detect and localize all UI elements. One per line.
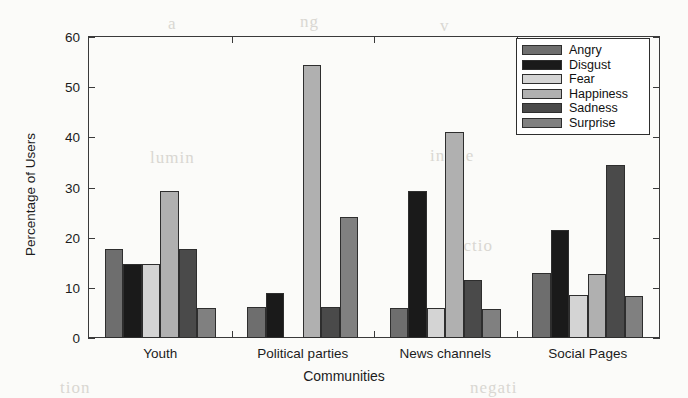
legend-item-sadness: Sadness	[522, 101, 644, 116]
bar-angry-news-channels	[390, 308, 409, 338]
bar-fear-social-pages	[569, 295, 588, 338]
bar-sadness-youth	[179, 249, 198, 338]
bar-fear-youth	[142, 264, 161, 338]
bar-happiness-news-channels	[445, 132, 464, 338]
legend-label: Fear	[569, 73, 595, 86]
y-tick-label: 50	[44, 80, 80, 95]
legend-label: Surprise	[569, 117, 616, 130]
bar-angry-youth	[105, 249, 124, 338]
bar-surprise-social-pages	[625, 296, 644, 338]
bar-surprise-youth	[197, 308, 216, 338]
legend-item-angry: Angry	[522, 43, 644, 58]
bar-sadness-political-parties	[321, 307, 340, 338]
bar-chart-figure: a ng v lumin in the ectio tion negati Pe…	[0, 0, 688, 398]
bar-happiness-youth	[160, 191, 179, 338]
bar-disgust-political-parties	[266, 293, 285, 338]
legend: AngryDisgustFearHappinessSadnessSurprise	[516, 38, 650, 135]
legend-label: Disgust	[569, 59, 611, 72]
x-tick-label: News channels	[399, 346, 491, 361]
legend-swatch-fear	[522, 74, 562, 84]
legend-swatch-surprise	[522, 118, 562, 128]
legend-item-happiness: Happiness	[522, 87, 644, 102]
scan-artifact: v	[440, 16, 450, 36]
y-axis-label: Percentage of Users	[23, 95, 38, 295]
bar-angry-political-parties	[247, 307, 266, 338]
bar-sadness-news-channels	[464, 280, 483, 338]
y-tick-label: 40	[44, 130, 80, 145]
bar-happiness-political-parties	[303, 65, 322, 338]
legend-swatch-sadness	[522, 103, 562, 113]
bar-disgust-news-channels	[408, 191, 427, 338]
legend-swatch-disgust	[522, 60, 562, 70]
legend-label: Happiness	[569, 88, 628, 101]
bar-sadness-social-pages	[606, 165, 625, 338]
legend-item-fear: Fear	[522, 72, 644, 87]
legend-swatch-happiness	[522, 89, 562, 99]
x-axis-label: Communities	[0, 368, 688, 384]
legend-label: Angry	[569, 44, 602, 57]
y-tick-mark	[653, 338, 660, 339]
legend-swatch-angry	[522, 45, 562, 55]
x-tick-label: Youth	[143, 346, 177, 361]
y-tick-label: 30	[44, 180, 80, 195]
y-tick-label: 10	[44, 280, 80, 295]
y-tick-mark	[88, 338, 95, 339]
scan-artifact: a	[168, 14, 177, 34]
y-tick-label: 0	[44, 331, 80, 346]
bar-happiness-social-pages	[588, 274, 607, 338]
legend-item-surprise: Surprise	[522, 116, 644, 131]
y-tick-label: 20	[44, 230, 80, 245]
scan-artifact: ng	[300, 12, 319, 32]
x-tick-label: Political parties	[257, 346, 348, 361]
bar-disgust-youth	[123, 264, 142, 338]
y-tick-label: 60	[44, 30, 80, 45]
legend-item-disgust: Disgust	[522, 58, 644, 73]
x-tick-label: Social Pages	[548, 346, 627, 361]
legend-label: Sadness	[569, 102, 618, 115]
bar-surprise-news-channels	[482, 309, 501, 338]
bar-angry-social-pages	[532, 273, 551, 338]
bar-surprise-political-parties	[340, 217, 359, 338]
bar-disgust-social-pages	[551, 230, 570, 338]
bar-fear-news-channels	[427, 308, 446, 338]
